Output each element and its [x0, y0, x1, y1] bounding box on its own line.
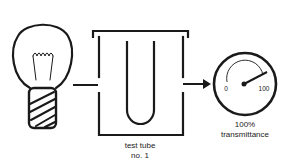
meter-gauge-icon	[214, 53, 276, 115]
meter-scale-arc	[227, 60, 263, 82]
test-tube-label-line1: test tube	[125, 141, 156, 150]
meter-min-label: 0	[224, 85, 228, 92]
test-tube-label-line2: no. 1	[131, 151, 149, 160]
meter-pivot	[242, 82, 247, 87]
chamber-left-wall-bottom	[99, 93, 183, 135]
meter-needle	[244, 72, 267, 84]
sample-chamber	[93, 31, 188, 135]
test-tube	[127, 41, 154, 124]
arrowhead-icon	[203, 79, 211, 89]
chamber-lid	[93, 31, 188, 37]
arrow-to-meter	[183, 79, 211, 89]
meter-label-line1: 100%	[235, 120, 255, 129]
meter-label-line2: transmittance	[221, 130, 270, 139]
light-bulb-icon	[13, 25, 72, 128]
spectrophotometer-diagram: 0 100 test tube no. 1 100% transmittance	[0, 0, 286, 160]
filament-coil	[33, 53, 53, 56]
meter-max-label: 100	[259, 85, 270, 92]
bulb-threads	[30, 92, 55, 127]
filament	[33, 56, 53, 80]
